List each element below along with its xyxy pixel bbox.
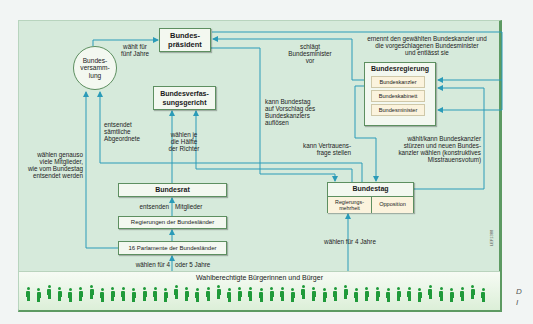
node-bundesversammlung-line2: versamm- [80, 64, 109, 72]
label-vertrauensfrage-line2: frage stellen [300, 149, 351, 156]
node-bundestag: Bundestag Regierungs- mehrheit Oppositio… [327, 182, 414, 213]
node-parlamente-laender: 16 Parlamente der Bundesländer [118, 241, 227, 255]
label-ernennt: ernennt den gewählten Bundeskanzler und … [362, 35, 492, 56]
label-vertrauensfrage: kann Vertrauens- frage stellen [300, 142, 351, 156]
node-bundesregierung-title: Bundesregierung [365, 63, 435, 74]
label-misstrauensvotum-line4: Misstrauensvotum) [388, 156, 481, 163]
person-icon [406, 287, 412, 301]
node-bundeskanzler: Bundeskanzler [371, 76, 425, 88]
node-bundesverfassungsgericht-line1: Bundesverfas- [154, 90, 215, 99]
person-icon [131, 288, 137, 302]
label-aufloesen-line1: kann Bundestag [265, 98, 325, 105]
node-regierungsmehrheit-line2: mehrheit [328, 205, 371, 211]
label-schlaegt-minister-line1: schlägt [285, 43, 335, 50]
label-misstrauensvotum-line1: wählt/kann Bundeskanzler [388, 135, 481, 142]
person-icon [449, 288, 455, 302]
node-bundesverfassungsgericht: Bundesverfas- sungsgericht [153, 86, 216, 110]
person-icon [237, 287, 243, 301]
person-icon [152, 287, 158, 301]
person-icon [353, 288, 359, 302]
label-schlaegt-minister-line3: vor [285, 57, 335, 64]
label-aufloesen-line2: auf Vorschlag des [265, 105, 325, 112]
side-note-1: D [516, 287, 522, 296]
node-regierungsmehrheit: Regierungs- mehrheit [328, 197, 372, 213]
node-bundestag-title: Bundestag [328, 183, 413, 197]
label-waehlt-fuenf-jahre-line2: fünf Jahre [115, 50, 155, 57]
node-bundesrat: Bundesrat [118, 183, 227, 197]
node-bundesregierung: Bundesregierung Bundeskanzler Bundeskabi… [364, 62, 436, 126]
label-aufloesen-line3: Bundeskanzlers [265, 112, 325, 119]
label-waehlen-genauso-line2: viele Mitglieder, [20, 158, 83, 165]
person-icon [332, 287, 338, 301]
label-mitglieder: Mitglieder [175, 203, 215, 210]
person-icon [205, 287, 211, 301]
person-icon [78, 287, 84, 301]
label-misstrauensvotum-line2: stürzen und neuen Bundes- [388, 142, 481, 149]
node-bundespraesident-line1: Bundes- [160, 31, 210, 40]
person-icon [216, 285, 222, 299]
person-icon [57, 287, 63, 301]
person-icon [25, 287, 31, 301]
person-icon [417, 288, 423, 302]
label-waehlen-genauso: wählen genauso viele Mitglieder, wie vom… [20, 151, 83, 179]
label-waehlen-haelfte-line1: wählen je [162, 131, 206, 138]
person-icon [258, 288, 264, 302]
person-icon [290, 288, 296, 302]
node-bundesverfassungsgericht-line2: sungsgericht [154, 99, 215, 108]
person-icon [247, 287, 253, 301]
person-icon [173, 285, 179, 299]
label-waehlen-genauso-line4: entsendet werden [20, 172, 83, 179]
person-icon [163, 288, 169, 302]
label-entsendet-abgeordnete-line2: sämtliche [104, 128, 149, 135]
side-note-2: I [516, 298, 518, 307]
person-icon [110, 287, 116, 301]
person-icon [142, 287, 148, 301]
person-icon [89, 285, 95, 299]
person-icon [343, 285, 349, 299]
node-bundespraesident: Bundes- präsident [159, 28, 211, 52]
label-waehlen-4: wählen für 4 [120, 261, 170, 268]
node-regierungen-laender: Regierungen der Bundesländer [118, 216, 227, 229]
person-icon [375, 287, 381, 301]
credit-label: LEF1388 [488, 230, 495, 246]
label-misstrauensvotum: wählt/kann Bundeskanzler stürzen und neu… [388, 135, 481, 163]
person-icon [46, 285, 52, 299]
person-icon [269, 287, 275, 301]
person-icon [385, 288, 391, 302]
label-entsenden: entsenden [130, 203, 169, 210]
label-entsendet-abgeordnete-line3: Abgeordnete [104, 135, 149, 142]
label-vertrauensfrage-line1: kann Vertrauens- [300, 142, 351, 149]
label-aufloesen-line4: auflösen [265, 119, 325, 126]
person-icon [427, 285, 433, 299]
node-bundespraesident-line2: präsident [160, 40, 210, 49]
person-icon [396, 287, 402, 301]
label-oder-5-jahre: oder 5 Jahre [175, 261, 225, 268]
citizen-figures [25, 285, 495, 307]
person-icon [364, 287, 370, 301]
label-waehlt-fuenf-jahre: wählt für fünf Jahre [115, 43, 155, 57]
node-bundesversammlung: Bundes- versamm- lung [73, 46, 117, 90]
node-bundesversammlung-line3: lung [80, 72, 109, 80]
person-icon [184, 287, 190, 301]
node-bundeskabinett: Bundeskabinett [371, 90, 425, 102]
label-entsendet-abgeordnete-line1: entsendet [104, 121, 149, 128]
person-icon [226, 288, 232, 302]
person-icon [480, 288, 486, 302]
person-icon [194, 288, 200, 302]
label-waehlen-genauso-line3: wie vom Bundestag [20, 165, 83, 172]
person-icon [470, 285, 476, 299]
label-ernennt-line3: und entlässt sie [362, 49, 492, 56]
person-icon [99, 288, 105, 302]
label-waehlt-fuenf-jahre-line1: wählt für [115, 43, 155, 50]
node-bundesversammlung-line1: Bundes- [80, 57, 109, 65]
person-icon [279, 287, 285, 301]
person-icon [120, 287, 126, 301]
label-waehlen-haelfte-line2: die Hälfte [162, 138, 206, 145]
citizens-strip: Wahlberechtigte Bürgerinnen und Bürger [19, 271, 500, 310]
label-waehlen-genauso-line1: wählen genauso [20, 151, 83, 158]
node-bundesminister: Bundesminister [371, 104, 425, 116]
person-icon [438, 287, 444, 301]
person-icon [311, 287, 317, 301]
label-waehlen-haelfte-line3: der Richter [162, 145, 206, 152]
label-schlaegt-minister: schlägt Bundesminister vor [285, 43, 335, 64]
